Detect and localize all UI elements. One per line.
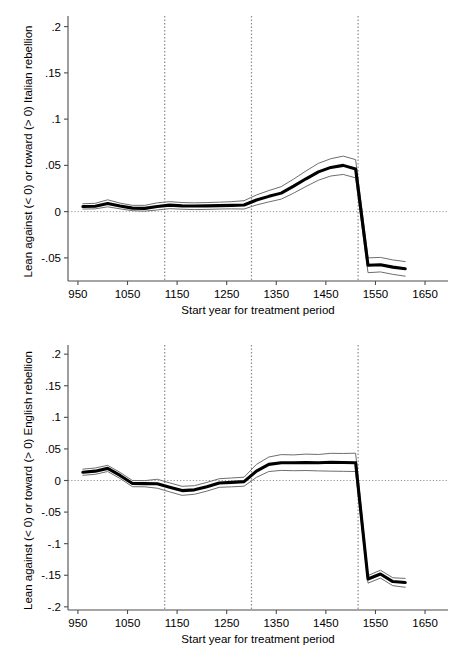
x-tick-label-2: 1150 xyxy=(165,288,190,300)
y-tick-label-1: .15 xyxy=(45,67,61,79)
x-tick-label-6: 1550 xyxy=(363,617,389,629)
x-tick-label-4: 1350 xyxy=(263,617,289,629)
y-tick-label-1: .15 xyxy=(45,380,61,392)
x-tick-label-6: 1550 xyxy=(363,288,389,300)
y-tick-label-0: .2 xyxy=(51,21,61,33)
x-tick-label-0: 950 xyxy=(68,288,87,300)
y-tick-label-7: -.15 xyxy=(41,569,61,581)
x-axis-title: Start year for treatment period xyxy=(181,304,334,316)
figure-two-panel-event-study: .2.15.1.050-.059501050115012501350145015… xyxy=(0,0,452,659)
x-tick-label-3: 1250 xyxy=(214,288,240,300)
chart-panel-english-rebellion: .2.15.1.050-.05-.1-.15-.2950105011501250… xyxy=(0,329,452,659)
y-tick-label-4: 0 xyxy=(55,475,61,487)
y-tick-label-0: .2 xyxy=(51,348,61,360)
x-tick-label-1: 1050 xyxy=(115,288,141,300)
y-tick-label-3: .05 xyxy=(45,443,61,455)
chart-svg-english: .2.15.1.050-.05-.1-.15-.2950105011501250… xyxy=(0,329,452,659)
x-tick-label-1: 1050 xyxy=(115,617,141,629)
x-tick-label-2: 1150 xyxy=(165,617,190,629)
y-tick-label-5: -.05 xyxy=(41,252,61,264)
series-point-estimate xyxy=(83,462,405,582)
y-tick-label-3: .05 xyxy=(45,159,61,171)
y-axis-title: Lean against (< 0) or toward (> 0) Engli… xyxy=(22,351,34,610)
x-tick-label-4: 1350 xyxy=(263,288,289,300)
x-tick-label-7: 1650 xyxy=(412,617,438,629)
y-axis-title: Lean against (< 0) or toward (> 0) Itali… xyxy=(22,26,34,278)
y-tick-label-5: -.05 xyxy=(41,506,61,518)
y-tick-label-2: .1 xyxy=(51,113,61,125)
x-tick-label-0: 950 xyxy=(68,617,87,629)
y-tick-label-6: -.1 xyxy=(48,538,61,550)
chart-svg-italian: .2.15.1.050-.059501050115012501350145015… xyxy=(0,0,452,330)
y-tick-label-4: 0 xyxy=(55,206,61,218)
x-tick-label-5: 1450 xyxy=(313,288,339,300)
x-tick-label-5: 1450 xyxy=(313,617,339,629)
x-axis-title: Start year for treatment period xyxy=(181,633,334,645)
y-tick-label-2: .1 xyxy=(51,411,61,423)
x-tick-label-7: 1650 xyxy=(412,288,438,300)
chart-panel-italian-rebellion: .2.15.1.050-.059501050115012501350145015… xyxy=(0,0,452,330)
x-tick-label-3: 1250 xyxy=(214,617,240,629)
y-tick-label-8: -.2 xyxy=(48,601,61,613)
series-point-estimate xyxy=(83,165,405,268)
